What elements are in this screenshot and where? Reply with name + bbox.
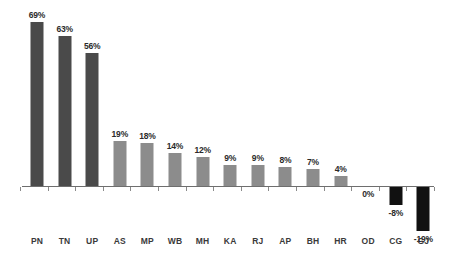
bar-slot-ka[interactable]: 9% (216, 0, 244, 232)
category-label-tn: TN (51, 236, 79, 246)
bar-slot-bh[interactable]: 7% (299, 0, 327, 232)
value-label-up: 56% (84, 41, 100, 51)
value-label-rj: 9% (252, 153, 264, 163)
bar-slot-mp[interactable]: 18% (133, 0, 161, 232)
bar-slot-up[interactable]: 56% (78, 0, 106, 232)
plot-area: 69%63%56%19%18%14%12%9%9%8%7%4%0%-8%-19% (0, 0, 458, 232)
bar-wb[interactable] (169, 153, 182, 186)
category-label-wb: WB (161, 236, 189, 246)
bar-slot-gj[interactable]: -19% (409, 0, 437, 232)
axis-tick (213, 187, 214, 191)
category-axis: PNTNUPASMPWBMHKARJAPBHHRODCGGJ (0, 236, 458, 256)
value-label-cg: -8% (389, 208, 404, 218)
bar-rj[interactable] (251, 165, 264, 186)
bar-hr[interactable] (334, 176, 347, 186)
value-label-wb: 14% (167, 141, 183, 151)
category-label-gj: GJ (409, 236, 437, 246)
bar-chart: 69%63%56%19%18%14%12%9%9%8%7%4%0%-8%-19%… (0, 0, 458, 271)
bar-slot-mh[interactable]: 12% (189, 0, 217, 232)
category-label-mp: MP (133, 236, 161, 246)
bar-gj[interactable] (417, 186, 430, 231)
category-label-cg: CG (382, 236, 410, 246)
category-label-ap: AP (271, 236, 299, 246)
bar-mp[interactable] (141, 143, 154, 186)
axis-tick (268, 187, 269, 191)
bar-bh[interactable] (307, 169, 320, 186)
bar-ap[interactable] (279, 167, 292, 186)
value-label-pn: 69% (29, 10, 45, 20)
axis-tick (20, 187, 21, 191)
value-label-bh: 7% (307, 157, 319, 167)
value-label-ap: 8% (279, 155, 291, 165)
axis-tick (406, 187, 407, 191)
axis-tick (324, 187, 325, 191)
value-label-mh: 12% (194, 145, 210, 155)
value-label-tn: 63% (56, 24, 72, 34)
bar-up[interactable] (86, 53, 99, 186)
category-label-hr: HR (327, 236, 355, 246)
axis-tick (158, 187, 159, 191)
bar-pn[interactable] (31, 22, 44, 186)
value-label-od: 0% (362, 189, 374, 199)
axis-tick (296, 187, 297, 191)
value-label-ka: 9% (224, 153, 236, 163)
bar-slot-od[interactable]: 0% (354, 0, 382, 232)
x-axis-line (22, 186, 434, 187)
bar-as[interactable] (113, 141, 126, 186)
category-label-mh: MH (189, 236, 217, 246)
category-label-pn: PN (23, 236, 51, 246)
bar-slot-tn[interactable]: 63% (51, 0, 79, 232)
value-label-hr: 4% (335, 164, 347, 174)
axis-tick (434, 187, 435, 191)
axis-tick (103, 187, 104, 191)
bar-slot-cg[interactable]: -8% (382, 0, 410, 232)
axis-tick (48, 187, 49, 191)
axis-tick (351, 187, 352, 191)
axis-tick (186, 187, 187, 191)
bar-ka[interactable] (224, 165, 237, 186)
value-label-as: 19% (112, 129, 128, 139)
category-label-ka: KA (216, 236, 244, 246)
bar-slot-as[interactable]: 19% (106, 0, 134, 232)
bar-slot-rj[interactable]: 9% (244, 0, 272, 232)
category-label-od: OD (354, 236, 382, 246)
bar-cg[interactable] (389, 186, 402, 205)
category-label-rj: RJ (244, 236, 272, 246)
bar-slot-wb[interactable]: 14% (161, 0, 189, 232)
category-label-bh: BH (299, 236, 327, 246)
value-label-mp: 18% (139, 131, 155, 141)
bar-slot-ap[interactable]: 8% (271, 0, 299, 232)
category-label-up: UP (78, 236, 106, 246)
bar-slot-hr[interactable]: 4% (327, 0, 355, 232)
axis-tick (379, 187, 380, 191)
bar-tn[interactable] (58, 36, 71, 186)
axis-tick (130, 187, 131, 191)
bar-mh[interactable] (196, 157, 209, 186)
axis-tick (241, 187, 242, 191)
bar-slot-pn[interactable]: 69% (23, 0, 51, 232)
category-label-as: AS (106, 236, 134, 246)
axis-tick (75, 187, 76, 191)
